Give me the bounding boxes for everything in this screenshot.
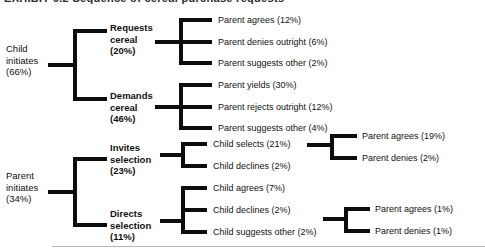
connector-invites-to-declines <box>181 164 207 168</box>
connector-directs-to-child-declines <box>181 208 207 212</box>
leaf-parent-denies-outright-6: Parent denies outright (6%) <box>218 37 328 49</box>
node-parent-initiates: Parent initiates (34%) <box>6 170 38 205</box>
connector-selects-to-parent-denies <box>330 156 357 160</box>
leaf-parent-agrees-1: Parent agrees (1%) <box>375 204 453 216</box>
node-child-initiates-line1: Child <box>6 43 38 55</box>
leaf-parent-agrees-19: Parent agrees (19%) <box>362 131 445 143</box>
node-requests-cereal-value: (20%) <box>110 45 153 57</box>
node-directs-selection-line2: selection <box>110 220 151 232</box>
node-child-initiates-value: (66%) <box>6 66 38 78</box>
leaf-child-suggests-other-2: Child suggests other (2%) <box>213 227 317 239</box>
connector-requests-to-agrees <box>179 18 212 22</box>
diagram-canvas: EXHIBIT 6.2 Sequence of cereal purchase … <box>0 0 485 250</box>
node-demands-cereal-value: (46%) <box>110 113 153 125</box>
leaf-child-agrees-7: Child agrees (7%) <box>213 183 285 195</box>
connector-invites-to-selects <box>181 142 207 146</box>
leaf-parent-suggests-other-4: Parent suggests other (4%) <box>218 123 328 135</box>
connector-directs-to-child-agrees <box>181 186 207 190</box>
node-requests-cereal-line1: Requests <box>110 22 153 34</box>
node-invites-selection-value: (23%) <box>110 165 151 177</box>
connector-demands-to-yields <box>179 83 212 87</box>
connector-demands-to-suggests <box>179 126 212 130</box>
connector-requests-to-denies <box>179 40 212 44</box>
exhibit-caption-text: EXHIBIT 6.2 Sequence of cereal purchase … <box>4 0 284 4</box>
connector-selects-to-parent-agrees <box>330 134 357 138</box>
connector-parent-to-directs <box>73 223 107 227</box>
node-directs-selection: Directs selection (11%) <box>110 208 151 243</box>
leaf-child-declines-2a: Child declines (2%) <box>213 161 291 173</box>
node-demands-cereal-line2: cereal <box>110 102 153 114</box>
connector-directs-to-child-suggests <box>181 230 207 234</box>
node-parent-initiates-line2: initiates <box>6 182 38 194</box>
connector-parent-to-invites <box>73 157 107 161</box>
leaf-parent-suggests-other-2: Parent suggests other (2%) <box>218 58 328 70</box>
connector-parent-initiates-split <box>73 157 77 227</box>
node-directs-selection-value: (11%) <box>110 231 151 243</box>
node-invites-selection-line1: Invites <box>110 142 151 154</box>
node-parent-initiates-line1: Parent <box>6 170 38 182</box>
leaf-parent-denies-2: Parent denies (2%) <box>362 153 439 165</box>
node-child-initiates-line2: initiates <box>6 55 38 67</box>
node-parent-initiates-value: (34%) <box>6 193 38 205</box>
leaf-parent-agrees-12: Parent agrees (12%) <box>218 15 301 27</box>
leaf-parent-rejects-outright-12: Parent rejects outright (12%) <box>218 102 333 114</box>
node-requests-cereal: Requests cereal (20%) <box>110 22 153 57</box>
connector-demands-to-rejects <box>179 105 212 109</box>
leaf-parent-denies-1: Parent denies (1%) <box>375 226 452 238</box>
connector-child-to-demands <box>73 97 107 101</box>
connector-suggests-to-parent-agrees <box>344 207 370 211</box>
connector-suggests-to-parent-denies <box>344 229 370 233</box>
node-requests-cereal-line2: cereal <box>110 34 153 46</box>
connector-requests-to-suggests <box>179 61 212 65</box>
node-invites-selection-line2: selection <box>110 154 151 166</box>
leaf-parent-yields-30: Parent yields (30%) <box>218 80 297 92</box>
node-child-initiates: Child initiates (66%) <box>6 43 38 78</box>
leaf-child-declines-2b: Child declines (2%) <box>213 205 291 217</box>
node-demands-cereal-line1: Demands <box>110 90 153 102</box>
node-invites-selection: Invites selection (23%) <box>110 142 151 177</box>
connector-child-initiates-split <box>73 29 77 101</box>
footer-divider <box>52 246 485 247</box>
node-demands-cereal: Demands cereal (46%) <box>110 90 153 125</box>
leaf-child-selects-21: Child selects (21%) <box>213 139 291 151</box>
node-directs-selection-line1: Directs <box>110 208 151 220</box>
connector-child-to-requests <box>73 29 107 33</box>
exhibit-caption: EXHIBIT 6.2 Sequence of cereal purchase … <box>0 0 485 7</box>
